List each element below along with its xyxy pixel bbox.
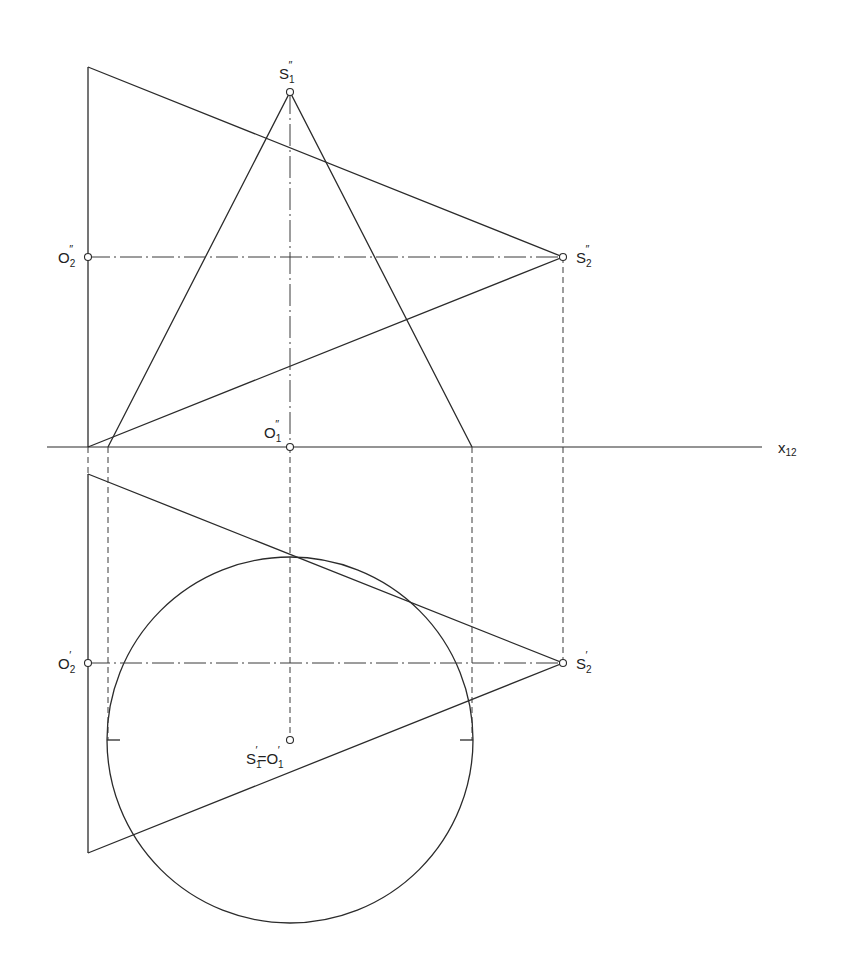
label-axis-x12: x12 xyxy=(778,439,797,458)
point-s1-o1-top xyxy=(287,737,294,744)
label-s1-o1-top: S1′=O1′ xyxy=(246,744,284,770)
label-o1-front: O1″ xyxy=(264,418,282,444)
projection-drawing: S1″ O2″ S2″ O1″ x12 O2′ S2′ S1′=O1′ xyxy=(0,0,854,968)
point-o1-front xyxy=(287,444,294,451)
label-o2-front: O2″ xyxy=(58,243,76,269)
label-s1-front: S1″ xyxy=(279,59,295,85)
point-s2-front xyxy=(560,254,567,261)
point-s1-front xyxy=(287,89,294,96)
point-o2-top xyxy=(85,660,92,667)
point-s2-top xyxy=(560,660,567,667)
label-s2-top: S2′ xyxy=(576,649,592,675)
point-o2-front xyxy=(85,254,92,261)
label-o2-top: O2′ xyxy=(58,649,76,675)
label-s2-front: S2″ xyxy=(576,243,592,269)
